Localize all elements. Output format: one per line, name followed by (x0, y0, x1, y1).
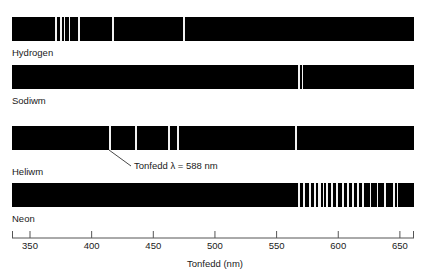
axis-tick-label-500: 500 (207, 240, 223, 251)
axis-tick-label-400: 400 (84, 240, 100, 251)
spectra-figure: Hydrogen Sodiwm Heliwm Neon Tonfedd λ = … (0, 0, 430, 278)
axis-tick-label-350: 350 (22, 240, 38, 251)
axis-tick-label-600: 600 (330, 240, 346, 251)
axis-tick-label-550: 550 (269, 240, 285, 251)
wavelength-axis (0, 0, 430, 278)
axis-tick-label-450: 450 (145, 240, 161, 251)
axis-tick-label-650: 650 (392, 240, 408, 251)
axis-title: Tonfedd (nm) (187, 258, 243, 269)
